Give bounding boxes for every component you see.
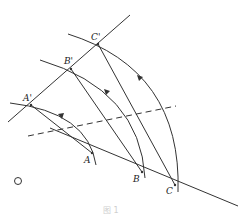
point-a [91,152,93,154]
label-c-prime: C' [91,32,100,42]
arc-b [40,60,145,178]
point-c [174,184,176,186]
point-b-prime [70,68,72,70]
label-b: B [132,174,140,184]
rotation-diagram: A B C A' B' C' 图 1 [0,0,248,216]
label-a-prime: A' [22,93,32,103]
center-o [15,178,22,185]
point-b [141,171,143,173]
arrow-icon-arc-b [104,89,110,95]
figure-caption: 图 1 [103,206,119,215]
label-b-prime: B' [63,56,73,66]
point-a-prime [30,104,32,106]
label-a: A [83,155,91,165]
label-c: C [166,186,173,196]
bisector-dashed-line [28,106,176,136]
point-c-prime [97,43,99,45]
